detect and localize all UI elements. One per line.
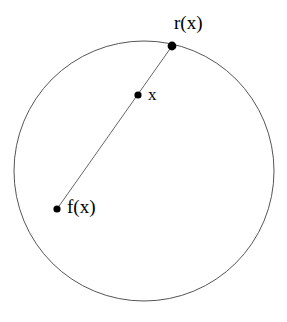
point-x — [134, 91, 141, 98]
point-label-x: x — [148, 86, 157, 103]
point-label-fx: f(x) — [67, 197, 95, 216]
point-fx — [53, 205, 60, 212]
geometry-figure — [0, 0, 287, 322]
ray-segment — [57, 46, 172, 209]
boundary-circle — [14, 41, 274, 301]
diagram-canvas: r(x) x f(x) — [0, 0, 287, 322]
point-label-rx: r(x) — [174, 13, 202, 32]
point-rx — [168, 42, 177, 51]
